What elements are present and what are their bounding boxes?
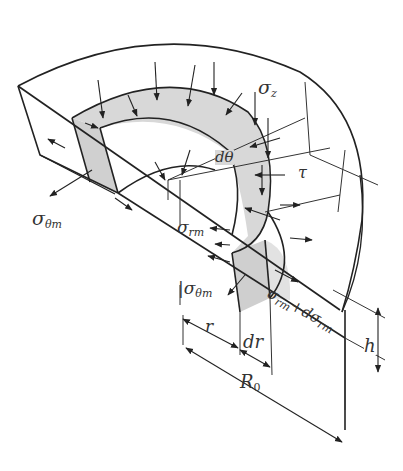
label-sigma-theta-m-left: σθm	[32, 209, 62, 228]
label-r: r	[205, 318, 213, 335]
label-sigma-rm: σrm	[177, 219, 204, 236]
label-tau: τ	[298, 165, 307, 181]
label-h: h	[364, 337, 376, 355]
label-R0: R0	[240, 373, 261, 391]
label-sigma-theta-m-front: |σθm	[178, 280, 212, 297]
label-dr: dr	[243, 333, 263, 351]
label-d-theta: dθ	[215, 150, 234, 165]
label-sigma-z: σz	[258, 78, 277, 97]
